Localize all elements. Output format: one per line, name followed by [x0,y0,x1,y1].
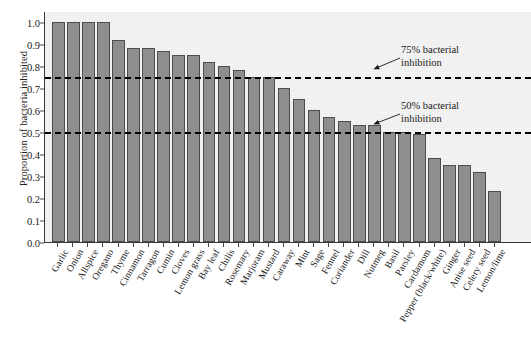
bar-chart-figure: Proportion of bacteria inhibited 0.00.10… [0,0,531,355]
annotation-50-arrow-icon [0,0,531,355]
